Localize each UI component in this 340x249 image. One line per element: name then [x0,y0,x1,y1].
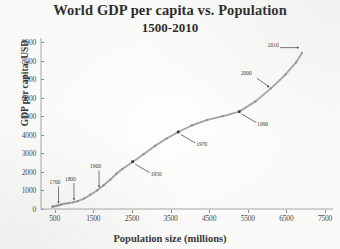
year-annotation-1970: 1970 [196,141,207,147]
plot-area [0,0,340,249]
year-annotation-1950: 1950 [151,171,162,177]
year-annotation-1900: 1900 [90,163,101,169]
data-series [51,52,303,208]
chart-page: World GDP per capita vs. Population 1500… [0,0,340,249]
axes [41,38,333,209]
year-annotation-1990: 1990 [257,121,268,127]
year-annotation-2000: 2000 [241,70,252,76]
year-annotation-1700: 1700 [50,179,61,185]
year-annotation-1800: 1800 [65,176,76,182]
year-annotation-2010: 2010 [268,42,279,48]
